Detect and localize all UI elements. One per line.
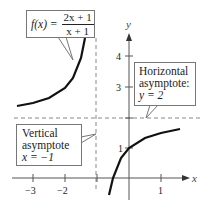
x-axis-arrow-icon bbox=[182, 175, 190, 181]
v-asym-line: Vertical bbox=[22, 127, 81, 139]
v-asymptote-callout-pointer bbox=[81, 134, 96, 143]
x-axis-label: x bbox=[191, 172, 197, 184]
x-tick-label: −3 bbox=[25, 185, 36, 196]
v-asym-line: asymptote bbox=[22, 139, 81, 151]
h-asymptote-callout-pointer bbox=[146, 105, 158, 118]
h-asym-line: asymptote: bbox=[139, 77, 195, 89]
y-tick-label: 3 bbox=[116, 82, 121, 93]
vertical-asymptote-callout: Vertical asymptote x = −1 bbox=[16, 124, 82, 166]
function-callout: f(x) = 2x + 1 x + 1 bbox=[26, 10, 95, 38]
h-asym-line: Horizontal bbox=[139, 65, 195, 77]
y-axis-arrow-icon bbox=[126, 33, 132, 41]
h-asym-line: y = 2 bbox=[139, 89, 195, 101]
curve-left-branch bbox=[17, 38, 85, 106]
function-fraction: 2x + 1 x + 1 bbox=[62, 12, 94, 37]
function-numerator: 2x + 1 bbox=[62, 12, 94, 25]
function-prefix: f(x) = bbox=[31, 18, 58, 30]
x-tick-label: −2 bbox=[57, 185, 68, 196]
x-tick-label: 1 bbox=[158, 185, 163, 196]
function-denominator: x + 1 bbox=[66, 25, 89, 37]
function-callout-pointer bbox=[58, 37, 73, 60]
y-tick-label: 4 bbox=[116, 51, 121, 62]
y-tick-label: 1 bbox=[118, 143, 123, 154]
curve-right-branch bbox=[109, 129, 180, 195]
horizontal-asymptote-callout: Horizontal asymptote: y = 2 bbox=[134, 62, 196, 106]
v-asym-line: x = −1 bbox=[22, 151, 81, 163]
y-axis-label: y bbox=[125, 18, 131, 30]
